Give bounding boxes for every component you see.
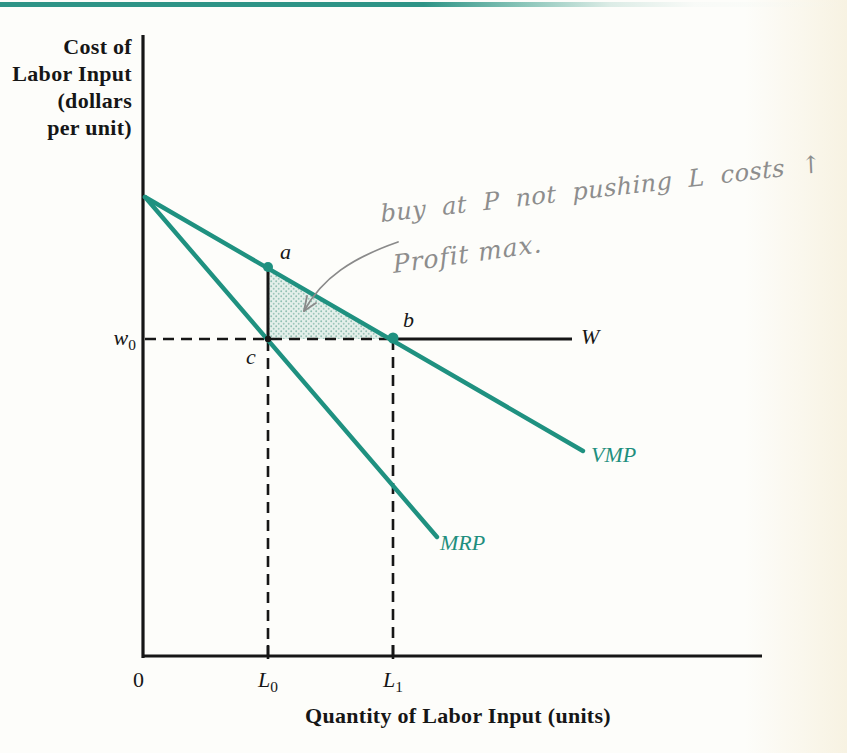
wage-line-label: W <box>581 324 599 350</box>
l1-tick-label: L1 <box>383 667 403 696</box>
y-axis-title-line: Labor Input <box>12 61 132 86</box>
wage-level-label: w0 <box>96 325 136 354</box>
y-axis-title-line: per unit) <box>47 115 132 140</box>
point-c-marker <box>265 336 271 342</box>
point-b-marker <box>388 333 399 344</box>
point-b-label: b <box>403 307 414 333</box>
l0-tick-label: L0 <box>258 667 278 696</box>
mrp-curve-label: MRP <box>440 530 485 556</box>
point-a-marker <box>263 262 273 272</box>
point-c-label: c <box>246 344 256 370</box>
point-a-label: a <box>280 239 291 265</box>
labor-input-chart: Cost of Labor Input (dollars per unit) Q… <box>0 0 847 753</box>
scanned-textbook-figure: Cost of Labor Input (dollars per unit) Q… <box>0 0 847 753</box>
y-axis-title-line: (dollars <box>57 88 132 113</box>
vmp-curve-label: VMP <box>591 442 636 468</box>
x-axis-title: Quantity of Labor Input (units) <box>143 703 773 729</box>
origin-tick-label: 0 <box>133 667 144 693</box>
y-axis-title: Cost of Labor Input (dollars per unit) <box>2 33 132 141</box>
y-axis-title-line: Cost of <box>63 34 132 59</box>
